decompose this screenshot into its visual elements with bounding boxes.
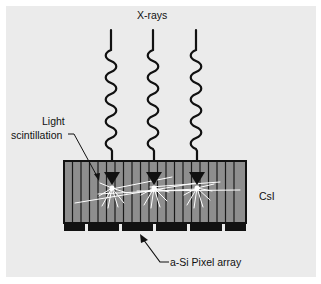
pixel-pad bbox=[64, 222, 85, 231]
light-label: Light bbox=[42, 115, 65, 127]
pixel-array-leader bbox=[140, 234, 169, 262]
xray-detector-diagram bbox=[0, 0, 321, 284]
pixel-pad bbox=[225, 222, 246, 231]
xray-beam-2-icon bbox=[148, 30, 159, 172]
xrays-label: X-rays bbox=[137, 9, 167, 21]
xray-beam-3-icon bbox=[191, 30, 202, 172]
csi-label: CsI bbox=[259, 190, 275, 202]
xray-beams bbox=[106, 30, 202, 172]
pixel-pad bbox=[190, 222, 222, 231]
pixel-pad bbox=[156, 222, 187, 231]
scintillation-label: scintillation bbox=[11, 129, 62, 141]
pixel-pad bbox=[122, 222, 153, 231]
xray-beam-1-icon bbox=[106, 30, 117, 172]
pixel-pad bbox=[88, 222, 119, 231]
pixel-array-label: a-Si Pixel array bbox=[170, 256, 241, 268]
